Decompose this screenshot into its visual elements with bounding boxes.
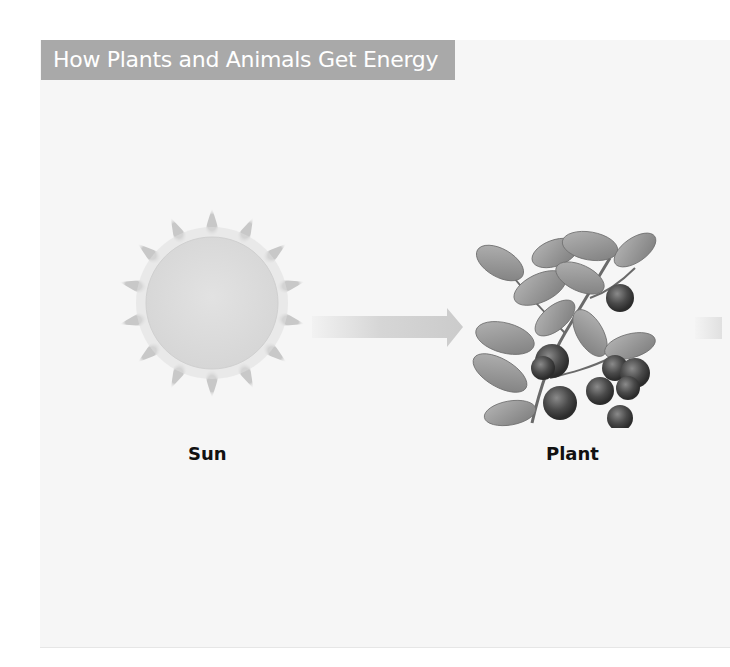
sun-icon	[115, 205, 310, 405]
sun-label: Sun	[188, 443, 227, 464]
blueberry-plant-icon	[470, 228, 660, 428]
diagram-title: How Plants and Animals Get Energy	[41, 40, 455, 80]
plant-label: Plant	[546, 443, 599, 464]
right-arrow-icon	[695, 314, 722, 342]
right-arrow-icon	[312, 305, 467, 350]
